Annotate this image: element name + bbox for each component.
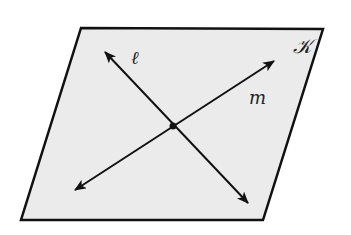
label-line-l: ℓ <box>131 47 139 68</box>
diagram-canvas: ℓ m 𝒦 <box>0 0 351 235</box>
label-line-m: m <box>249 87 266 108</box>
intersection-point <box>170 123 177 130</box>
